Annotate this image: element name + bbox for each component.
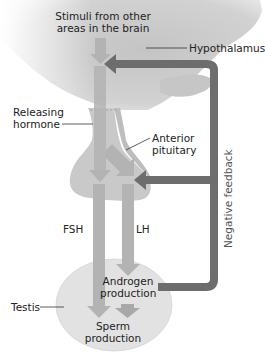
fsh-label: FSH [63, 223, 83, 235]
diagram-canvas: Stimuli from other areas in the brain Hy… [0, 0, 265, 356]
stimuli-label: Stimuli from other areas in the brain [52, 10, 154, 34]
anterior-pituitary-label: Anterior pituitary [152, 132, 196, 156]
anterior-pituitary-leader-line [126, 138, 150, 150]
androgen-line1: Androgen [100, 275, 156, 287]
anterior-pituitary-line2: pituitary [152, 144, 196, 156]
stimuli-label-line1: Stimuli from other [52, 10, 154, 22]
releasing-hormone-line1: Releasing [13, 106, 64, 118]
testis-label: Testis [11, 301, 40, 313]
lh-label: LH [136, 223, 150, 235]
releasing-hormone-line2: hormone [13, 118, 64, 130]
hypothalamus-label: Hypothalamus [189, 42, 265, 54]
sperm-line1: Sperm [84, 320, 142, 332]
sperm-line2: production [84, 332, 142, 344]
sperm-production-label: Sperm production [84, 320, 142, 344]
androgen-line2: production [100, 287, 156, 299]
stimuli-label-line2: areas in the brain [52, 22, 154, 34]
releasing-hormone-label: Releasing hormone [13, 106, 64, 130]
negative-feedback-label: Negative feedback [222, 149, 234, 248]
androgen-production-label: Androgen production [100, 275, 156, 299]
anterior-pituitary-line1: Anterior [152, 132, 196, 144]
